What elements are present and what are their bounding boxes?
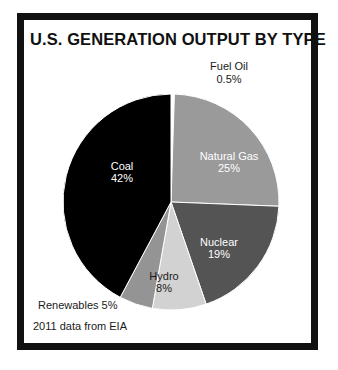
pie-chart-plot-area: U.S. GENERATION OUTPUT BY TYPE Coal 42% …: [0, 0, 338, 370]
pie-label-coal: Coal 42%: [98, 160, 146, 185]
pie-label-coal-value: 42%: [98, 172, 146, 184]
pie-label-renewables: Renewables 5%: [38, 299, 118, 312]
pie-label-nuclear: Nuclear 19%: [191, 236, 247, 261]
pie-label-nuclear-name: Nuclear: [200, 236, 238, 248]
pie-label-hydro: Hydro 8%: [143, 270, 185, 295]
pie-chart-svg: [0, 0, 338, 370]
pie-label-nuclear-value: 19%: [191, 248, 247, 260]
pie-label-natural-gas: Natural Gas 25%: [190, 150, 268, 175]
pie-label-natural-gas-name: Natural Gas: [200, 150, 259, 162]
pie-label-fuel-oil-value: 0.5%: [216, 73, 241, 85]
pie-label-coal-name: Coal: [111, 160, 134, 172]
pie-label-fuel-oil: Fuel Oil 0.5%: [196, 60, 262, 85]
pie-label-natural-gas-value: 25%: [190, 162, 268, 174]
pie-label-fuel-oil-name: Fuel Oil: [210, 60, 248, 72]
chart-figure: U.S. GENERATION OUTPUT BY TYPE Coal 42% …: [0, 0, 338, 370]
pie-label-hydro-value: 8%: [143, 282, 185, 294]
pie-label-hydro-name: Hydro: [149, 270, 178, 282]
source-note: 2011 data from EIA: [33, 320, 127, 332]
